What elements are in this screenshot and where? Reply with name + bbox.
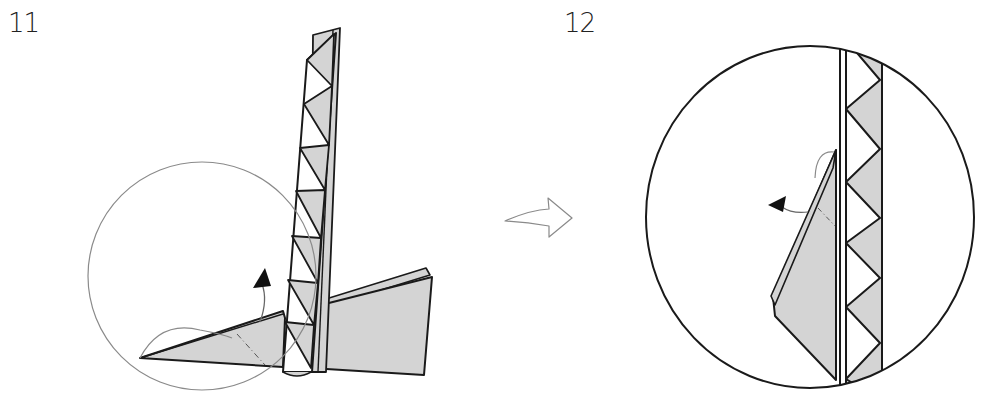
step-12-figure bbox=[646, 30, 974, 399]
origami-diagram bbox=[0, 0, 984, 399]
step-11-figure bbox=[88, 28, 432, 390]
left-arrow-icon bbox=[768, 196, 786, 212]
up-arrow-icon bbox=[253, 268, 271, 288]
next-step-arrow-icon bbox=[505, 198, 572, 237]
